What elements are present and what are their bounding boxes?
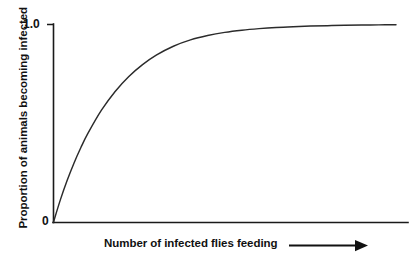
y-axis-title: Proportion of animals becoming infected (18, 2, 30, 234)
y-axis-tick-label-zero: 0 (42, 215, 49, 227)
x-axis-title: Number of infected flies feeding (104, 238, 277, 250)
x-axis-title-group: Number of infected flies feeding (104, 238, 277, 250)
chart-figure: 1.0 0 Proportion of animals becoming inf… (0, 0, 418, 269)
x-axis-arrow-head (355, 240, 368, 251)
plot-area (0, 0, 418, 269)
data-curve-proportion-infected (54, 25, 397, 222)
